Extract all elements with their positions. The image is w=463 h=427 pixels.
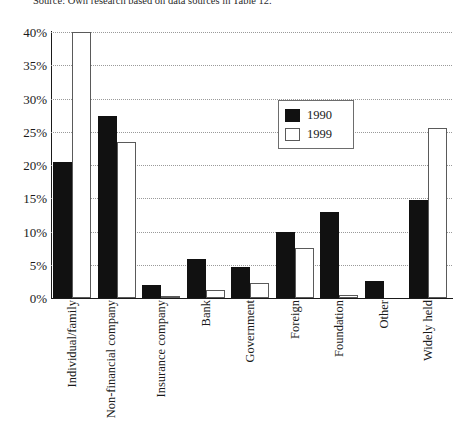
- bar-1999: [339, 295, 358, 298]
- x-axis-label: Individual/family: [65, 300, 81, 425]
- bar-1990: [187, 259, 206, 298]
- bar-1999: [117, 142, 136, 298]
- bar-1999: [295, 248, 314, 298]
- bar-1990: [276, 232, 295, 299]
- bar-1990: [365, 281, 384, 298]
- x-axis-label: Other: [377, 300, 393, 425]
- bar-1990: [409, 200, 428, 298]
- x-axis-label: Foundation: [332, 300, 348, 425]
- legend-label: 1999: [307, 128, 332, 141]
- y-tick-30pct: 30%: [3, 93, 47, 106]
- bar-1999: [206, 290, 225, 298]
- bar-group: [51, 32, 96, 298]
- chart-legend: 19901999: [278, 100, 354, 149]
- bar-1990: [53, 162, 72, 298]
- bar-1990: [320, 212, 339, 298]
- bar-1999: [161, 296, 180, 298]
- x-axis-label: Insurance company: [154, 300, 170, 425]
- bar-group: [318, 32, 363, 298]
- legend-entry-1999: 1999: [285, 125, 347, 144]
- bar-group: [274, 32, 319, 298]
- y-tick-20pct: 20%: [3, 159, 47, 172]
- bar-1999: [428, 128, 447, 298]
- y-tick-40pct: 40%: [3, 26, 47, 39]
- y-tick-35pct: 35%: [3, 59, 47, 72]
- legend-swatch-icon: [285, 109, 300, 122]
- x-axis-label: Widely held: [421, 300, 437, 425]
- bar-group: [363, 32, 408, 298]
- plot-area: [51, 32, 452, 298]
- x-axis-label: Foreign: [288, 300, 304, 425]
- bar-chart-figure: Source: Own research based on data sourc…: [0, 0, 463, 427]
- x-axis-category-labels: Individual/familyNon-financial companyIn…: [51, 300, 452, 427]
- source-caption: Source: Own research based on data sourc…: [33, 0, 453, 7]
- bar-group: [140, 32, 185, 298]
- y-tick-10pct: 10%: [3, 226, 47, 239]
- bar-1990: [231, 267, 250, 298]
- bar-1990: [142, 285, 161, 298]
- y-tick-0pct: 0%: [3, 292, 47, 305]
- y-axis-tick-labels: 40%35%30%25%20%15%10%5%0%: [0, 32, 47, 298]
- bar-group: [407, 32, 452, 298]
- x-axis-label: Government: [243, 300, 259, 425]
- legend-label: 1990: [307, 109, 332, 122]
- bar-1990: [98, 116, 117, 298]
- legend-swatch-icon: [285, 128, 300, 141]
- bar-group: [96, 32, 141, 298]
- bar-1999: [72, 32, 91, 298]
- y-tick-25pct: 25%: [3, 126, 47, 139]
- x-axis-label: Bank: [199, 300, 215, 425]
- bar-group: [229, 32, 274, 298]
- x-axis-line: [51, 298, 453, 299]
- bar-1999: [250, 283, 269, 298]
- y-tick-15pct: 15%: [3, 192, 47, 205]
- legend-entry-1990: 1990: [285, 106, 347, 125]
- bar-group: [185, 32, 230, 298]
- y-tick-5pct: 5%: [3, 259, 47, 272]
- x-axis-label: Non-financial company: [104, 300, 134, 425]
